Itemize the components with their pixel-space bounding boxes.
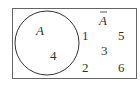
element-5: 5 bbox=[118, 28, 125, 43]
venn-diagram: A 4 A 1 5 3 2 6 bbox=[0, 0, 140, 85]
set-a-label: A bbox=[35, 23, 44, 38]
complement-label: A bbox=[98, 13, 107, 28]
element-3: 3 bbox=[101, 43, 108, 58]
element-6: 6 bbox=[118, 60, 125, 75]
element-4: 4 bbox=[50, 48, 57, 63]
element-1: 1 bbox=[82, 28, 89, 43]
set-a-circle bbox=[15, 11, 79, 75]
element-2: 2 bbox=[82, 60, 89, 75]
